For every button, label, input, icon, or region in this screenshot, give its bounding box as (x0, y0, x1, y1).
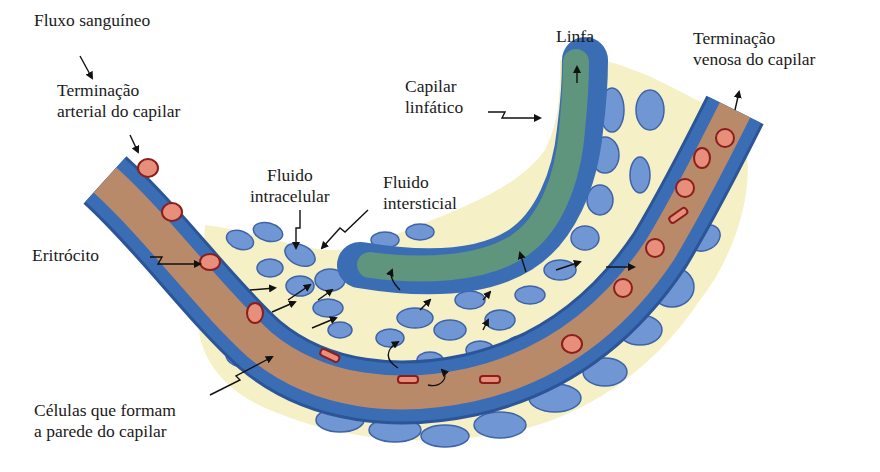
label-celulas-parede: Células que formam a parede do capilar (34, 400, 176, 442)
intersticial-line1: Fluido (383, 172, 457, 193)
label-capilar-linfatico: Capilar linfático (405, 76, 463, 118)
fluxo-text: Fluxo sanguíneo (34, 10, 150, 31)
label-terminacao-arterial: Terminação arterial do capilar (57, 80, 180, 122)
capilar-linfatico-line2: linfático (405, 97, 463, 118)
arterial-line1: Terminação (57, 80, 180, 101)
label-fluido-intracelular: Fluido intracelular (250, 165, 330, 207)
venosa-line1: Terminação (693, 28, 815, 49)
label-fluxo-sanguineo: Fluxo sanguíneo (34, 10, 150, 31)
eritrocito-text: Eritrócito (32, 245, 99, 266)
label-eritrocito: Eritrócito (32, 245, 99, 266)
capilar-linfatico-line1: Capilar (405, 76, 463, 97)
intracelular-line1: Fluido (250, 165, 330, 186)
venosa-line2: venosa do capilar (693, 49, 815, 70)
intracelular-line2: intracelular (250, 186, 330, 207)
label-fluido-intersticial: Fluido intersticial (383, 172, 457, 214)
celulas-line1: Células que formam (34, 400, 176, 421)
label-terminacao-venosa: Terminação venosa do capilar (693, 28, 815, 70)
celulas-line2: a parede do capilar (34, 421, 176, 442)
intersticial-line2: intersticial (383, 193, 457, 214)
linfa-text: Linfa (556, 26, 594, 47)
arterial-line2: arterial do capilar (57, 101, 180, 122)
label-linfa: Linfa (556, 26, 594, 47)
